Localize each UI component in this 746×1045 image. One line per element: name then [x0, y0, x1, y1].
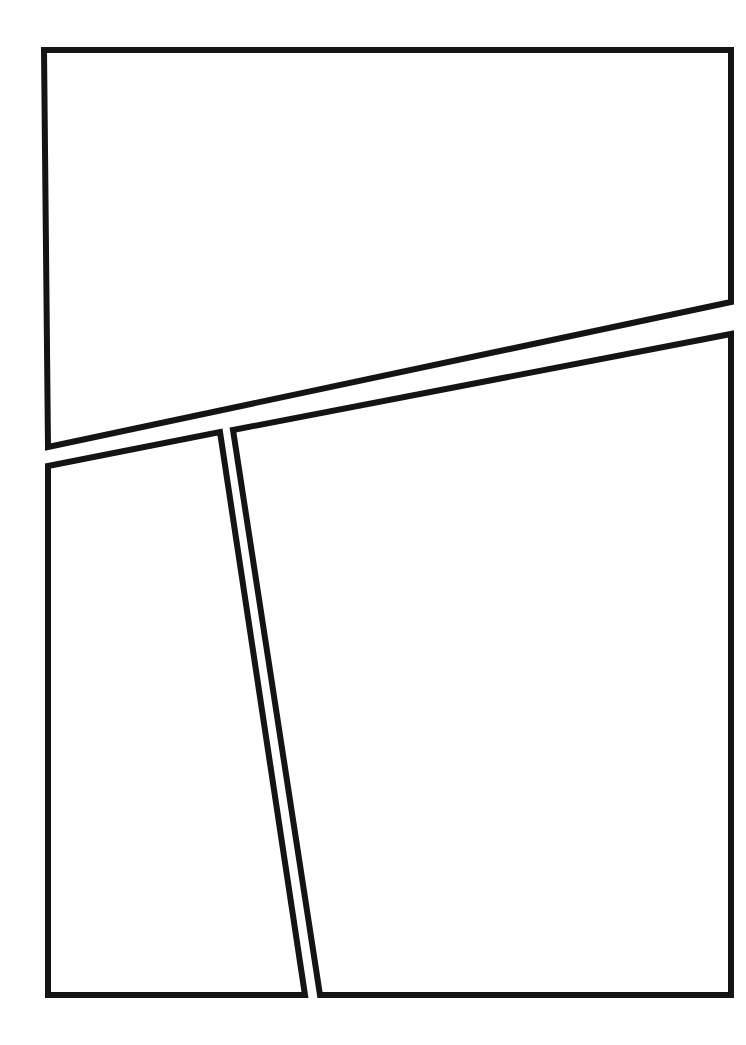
comic-page — [0, 0, 746, 1045]
panel-group-bottom-right[interactable] — [233, 334, 731, 995]
panel-layout — [0, 0, 746, 1045]
